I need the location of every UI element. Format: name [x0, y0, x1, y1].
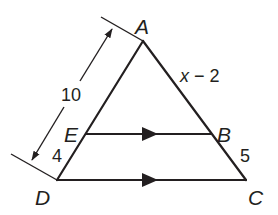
measurement-bc: 5: [240, 147, 250, 165]
measurement-ad: 10: [61, 86, 81, 104]
vertex-label-b: B: [217, 124, 231, 145]
measurement-ed: 4: [52, 147, 62, 165]
measurement-ab: x − 2: [180, 67, 220, 85]
parallel-mark-eb-icon: [142, 127, 158, 141]
dimension-line-upper: [80, 29, 112, 81]
side-ad: [57, 41, 143, 180]
vertex-label-e: E: [64, 124, 78, 145]
parallel-mark-dc-icon: [142, 173, 158, 187]
vertex-label-a: A: [135, 16, 149, 37]
side-ac: [143, 41, 246, 180]
measurement-ab-variable: x: [180, 66, 189, 86]
vertex-label-d: D: [35, 187, 50, 208]
vertex-label-c: C: [248, 187, 263, 208]
measurement-ab-rest: − 2: [189, 66, 220, 86]
